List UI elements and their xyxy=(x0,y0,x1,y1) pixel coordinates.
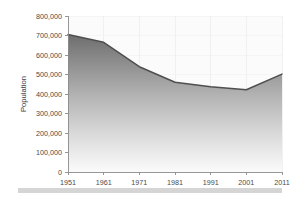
x-tick-label: 1961 xyxy=(96,178,112,187)
x-tick-label: 1991 xyxy=(203,178,219,187)
x-tick-label: 1951 xyxy=(60,178,76,187)
y-axis-ticks: 0100,000200,000300,000400,000500,000600,… xyxy=(36,12,68,177)
x-tick-label: 2001 xyxy=(238,178,254,187)
footer-bar xyxy=(18,188,282,193)
y-tick-label: 0 xyxy=(58,168,62,177)
y-tick-label: 100,000 xyxy=(36,148,62,157)
x-tick-label: 1981 xyxy=(167,178,183,187)
y-tick-label: 600,000 xyxy=(36,51,62,60)
y-axis-title: Population xyxy=(19,76,28,112)
y-tick-label: 500,000 xyxy=(36,70,62,79)
chart-canvas: 0100,000200,000300,000400,000500,000600,… xyxy=(0,0,300,199)
x-tick-label: 2011 xyxy=(274,178,289,187)
y-tick-label: 300,000 xyxy=(36,109,62,118)
y-tick-label: 400,000 xyxy=(36,90,62,99)
y-tick-label: 200,000 xyxy=(36,129,62,138)
population-area-chart: 0100,000200,000300,000400,000500,000600,… xyxy=(0,0,300,199)
x-axis-ticks: 1951196119711981199120012011 xyxy=(60,172,290,187)
y-tick-label: 800,000 xyxy=(36,12,62,21)
y-tick-label: 700,000 xyxy=(36,31,62,40)
x-tick-label: 1971 xyxy=(131,178,147,187)
